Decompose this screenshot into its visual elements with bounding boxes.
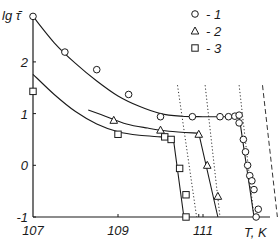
legend-label: - 1 [206,7,221,22]
x-tick-label: 109 [107,223,129,238]
triangle-marker [195,130,203,137]
circle-marker [62,49,69,56]
legend-square-icon [192,45,198,51]
legend: - 1- 2- 3 [191,7,222,56]
circle-marker [240,136,247,143]
circle-marker [30,13,37,20]
square-marker [30,88,36,94]
reference-lines [178,85,278,217]
y-tick-label: 2 [20,55,29,70]
x-axis-label: T, K [244,225,268,240]
x-tick-label: 107 [22,223,44,238]
legend-circle-icon [192,11,199,18]
circle-marker [236,120,243,127]
chart: -1012107109111 - 1- 2- 3 lg τ̄ T, K [0,0,279,242]
x-tick-label: 111 [193,223,213,238]
triangle-marker [110,116,118,123]
circle-marker [251,186,258,193]
square-marker [176,165,182,171]
circle-marker [255,206,262,213]
axes: -1012107109111 [16,15,270,238]
square-marker [183,192,189,198]
fit-curve-series-2 [88,110,218,217]
legend-triangle-icon [191,27,199,34]
fit-curve-series-3 [33,74,184,217]
circle-marker [236,112,243,119]
triangle-marker [203,161,211,168]
circle-marker [225,113,232,120]
y-tick-label: 0 [21,158,29,173]
y-tick-label: 1 [21,107,28,122]
circle-marker [217,113,224,120]
triangle-marker [214,192,222,199]
square-marker [183,214,189,220]
legend-label: - 2 [206,24,222,39]
circle-marker [93,66,100,73]
circle-marker [242,149,249,156]
circle-marker [249,178,256,185]
circle-marker [253,214,260,221]
circle-marker [125,91,132,98]
data-points [30,13,262,220]
dashed-reference-line [263,85,278,217]
circle-marker [157,113,164,120]
chart-canvas: -1012107109111 - 1- 2- 3 lg τ̄ T, K [0,0,279,242]
square-marker [162,134,168,140]
legend-label: - 3 [206,41,222,56]
circle-marker [189,113,196,120]
circle-marker [244,162,251,169]
square-marker [168,136,174,142]
y-axis-label: lg τ̄ [2,8,23,23]
square-marker [115,131,121,137]
